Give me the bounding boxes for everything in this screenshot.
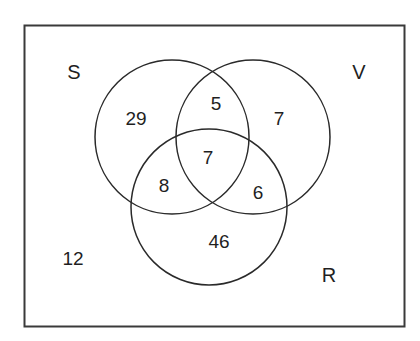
region-s-r-only: 8 [159, 176, 170, 195]
venn-diagram [0, 0, 420, 341]
region-v-r-only: 6 [253, 183, 264, 202]
circle-s [95, 60, 249, 214]
region-s-v-only: 5 [211, 94, 222, 113]
region-none: 12 [62, 249, 83, 268]
region-s-v-r: 7 [203, 148, 214, 167]
set-label-v: V [352, 62, 365, 82]
set-label-s: S [67, 62, 80, 82]
set-label-r: R [322, 265, 336, 285]
region-s-only: 29 [125, 109, 146, 128]
region-r-only: 46 [208, 232, 229, 251]
region-v-only: 7 [274, 109, 285, 128]
